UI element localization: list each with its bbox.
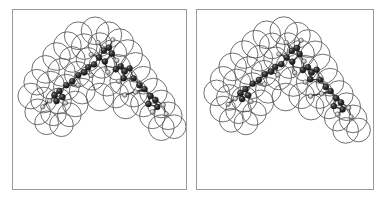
atom-sphere-light <box>275 73 280 78</box>
atom-sphere-dark <box>121 75 127 81</box>
atom-sphere-dark <box>297 51 303 57</box>
atom-sphere-light <box>106 70 111 75</box>
atom-sphere-light <box>150 110 155 115</box>
atom-sphere-light <box>233 96 238 101</box>
atom-sphere-dark <box>237 90 243 96</box>
vdw-sphere <box>324 105 350 131</box>
atom-sphere-dark <box>331 103 337 109</box>
vdw-sphere <box>43 43 71 71</box>
atom-sphere-light <box>122 93 127 98</box>
atom-sphere-light <box>40 105 44 109</box>
atom-sphere-dark <box>284 54 290 60</box>
vdw-sphere <box>50 113 74 137</box>
atom-sphere-light <box>335 112 340 117</box>
atom-sphere-dark <box>338 99 344 105</box>
atom-sphere-dark <box>245 92 251 98</box>
atom-sphere-dark <box>307 76 313 82</box>
atom-sphere-dark <box>314 67 320 73</box>
vdw-sphere <box>219 108 243 132</box>
atom-sphere-dark <box>333 95 339 101</box>
atom-sphere-dark <box>272 64 278 70</box>
atom-sphere-dark <box>63 82 69 88</box>
vdw-sphere-layer <box>204 17 371 143</box>
atom-sphere-dark <box>262 71 268 77</box>
atom-sphere-dark <box>268 69 274 75</box>
molecule-view-left <box>13 10 186 189</box>
atom-sphere-dark <box>152 97 158 103</box>
atom-sphere-dark <box>323 84 329 90</box>
atom-sphere-dark <box>106 45 112 51</box>
atom-sphere-light <box>115 58 120 63</box>
molecule-view-right <box>197 10 373 189</box>
atom-layer <box>40 38 168 116</box>
atom-sphere-dark <box>127 65 133 71</box>
atom-sphere-dark <box>85 64 91 70</box>
atom-sphere-light <box>76 83 81 88</box>
atom-sphere-dark <box>131 75 137 81</box>
atom-sphere-dark <box>154 104 160 110</box>
atom-sphere-dark <box>256 77 262 83</box>
atom-sphere-dark <box>59 94 65 100</box>
atom-sphere-dark <box>54 98 60 104</box>
atom-sphere-light <box>117 79 122 84</box>
atom-sphere-light <box>161 103 166 108</box>
atom-sphere-dark <box>118 63 124 69</box>
atom-sphere-light <box>164 112 168 116</box>
stereo-panel-left <box>12 9 187 190</box>
vdw-sphere <box>204 80 230 106</box>
atom-sphere-dark <box>278 61 284 67</box>
atom-sphere-dark <box>147 93 153 99</box>
atom-sphere-light <box>89 73 94 78</box>
atom-sphere-dark <box>137 82 143 88</box>
atom-sphere-dark <box>145 101 151 107</box>
atom-sphere-light <box>293 70 298 75</box>
atom-sphere-dark <box>243 86 249 92</box>
vdw-sphere <box>140 103 166 129</box>
atom-sphere-light <box>277 52 281 56</box>
atom-sphere-light <box>303 80 308 85</box>
atom-sphere-dark <box>340 107 346 113</box>
atom-sphere-light <box>302 59 307 64</box>
vdw-sphere <box>230 41 258 69</box>
atom-sphere-light <box>319 91 324 96</box>
atom-sphere-dark <box>305 64 311 70</box>
atom-sphere-light <box>111 38 115 42</box>
atom-sphere-dark <box>102 59 108 65</box>
atom-sphere-dark <box>289 59 295 65</box>
atom-sphere-light <box>284 40 289 45</box>
atom-sphere-dark <box>81 69 87 75</box>
atom-sphere-light <box>96 40 101 45</box>
atom-sphere-dark <box>69 78 75 84</box>
atom-sphere-light <box>262 82 267 87</box>
atom-sphere-dark <box>317 77 323 83</box>
stereo-panel-right <box>196 9 374 190</box>
atom-sphere-light <box>47 99 52 104</box>
vdw-sphere-layer <box>18 17 186 141</box>
vdw-sphere <box>57 103 81 127</box>
atom-sphere-dark <box>250 81 256 87</box>
vdw-sphere <box>234 111 258 135</box>
atom-sphere-light <box>308 94 313 99</box>
atom-sphere-dark <box>91 61 97 67</box>
atom-sphere-light <box>226 102 230 106</box>
atom-sphere-dark <box>142 86 148 92</box>
vdw-sphere <box>242 102 266 126</box>
atom-sphere-light <box>133 90 138 95</box>
atom-sphere-dark <box>109 51 115 57</box>
atom-sphere-dark <box>96 55 102 61</box>
atom-sphere-light <box>349 115 353 119</box>
stereo-figure <box>0 0 386 199</box>
atom-sphere-dark <box>239 96 245 102</box>
atom-sphere-light <box>346 105 351 110</box>
atom-sphere-dark <box>56 88 62 94</box>
atom-sphere-dark <box>51 92 57 98</box>
atom-sphere-light <box>299 38 303 42</box>
atom-sphere-light <box>89 52 93 56</box>
vdw-sphere <box>18 83 44 109</box>
atom-sphere-light <box>249 99 254 104</box>
atom-sphere-light <box>63 101 68 106</box>
atom-sphere-dark <box>328 88 334 94</box>
atom-sphere-dark <box>75 72 81 78</box>
atom-sphere-dark <box>294 45 300 51</box>
